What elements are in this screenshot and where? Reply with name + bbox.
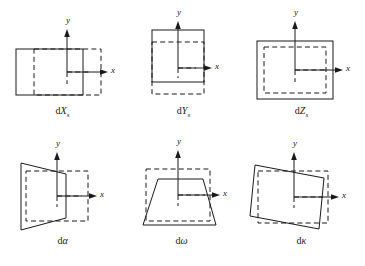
x-axis-label: x <box>100 190 104 199</box>
x-axis-arrowhead <box>335 67 343 73</box>
y-axis-arrowhead <box>292 21 298 29</box>
y-axis-arrowhead <box>175 21 181 29</box>
caption-variable: κ <box>302 235 307 246</box>
y-axis-arrowhead <box>64 29 70 37</box>
caption-subscript: s <box>67 111 70 119</box>
panel-dYs: y x dYs <box>123 6 244 139</box>
x-axis-arrowhead <box>89 193 97 199</box>
x-axis-arrowhead <box>204 65 212 71</box>
y-axis-label: y <box>177 8 181 17</box>
x-axis-label: x <box>223 189 227 198</box>
y-axis-arrowhead <box>291 152 297 160</box>
panel-dYs-graphic <box>123 6 244 139</box>
inner-dashed-marks <box>67 72 90 84</box>
y-axis-arrowhead <box>175 150 181 158</box>
caption-variable: ω <box>180 235 187 246</box>
y-axis-arrowhead <box>54 152 60 160</box>
x-axis-arrowhead <box>100 69 108 75</box>
caption-subscript: s <box>305 111 308 119</box>
y-axis-label: y <box>293 139 297 148</box>
panel-dkappa: y x dκ <box>241 133 362 266</box>
caption-subscript: s <box>187 111 190 119</box>
inner-dashed-marks <box>57 196 82 207</box>
panel-dZs: y x dZs <box>241 6 362 139</box>
inner-dashed-marks <box>178 195 205 206</box>
x-axis-label: x <box>342 191 346 200</box>
panel-caption-dkappa: dκ <box>241 236 362 249</box>
panel-caption-dYs: dYs <box>123 106 244 119</box>
caption-variable: α <box>62 235 67 246</box>
figure-root: y x dXs y x dYs <box>0 0 365 266</box>
y-axis-label: y <box>177 137 181 146</box>
x-axis-label: x <box>346 64 350 73</box>
y-axis-label: y <box>56 139 60 148</box>
panel-caption-dZs: dZs <box>241 106 362 119</box>
panel-dalpha: y x dα <box>2 133 123 266</box>
panel-caption-dXs: dXs <box>2 106 123 119</box>
x-axis-arrowhead <box>212 192 220 198</box>
x-axis-label: x <box>111 66 115 75</box>
displaced-trapezoid <box>143 179 216 225</box>
panel-dZs-graphic <box>241 6 362 139</box>
inner-dashed-marks <box>178 68 196 78</box>
y-axis-label: y <box>66 16 70 25</box>
x-axis-arrowhead <box>331 194 339 200</box>
panel-dXs: y x dXs <box>2 6 123 139</box>
panel-caption-domega: dω <box>121 236 242 249</box>
panel-domega: y x dω <box>121 133 242 266</box>
y-axis-label: y <box>294 8 298 17</box>
inner-dashed-marks <box>295 70 326 82</box>
inner-dashed-marks <box>294 197 323 208</box>
x-axis-label: x <box>215 62 219 71</box>
panel-dXs-graphic <box>2 6 123 139</box>
panel-caption-dalpha: dα <box>2 236 123 249</box>
